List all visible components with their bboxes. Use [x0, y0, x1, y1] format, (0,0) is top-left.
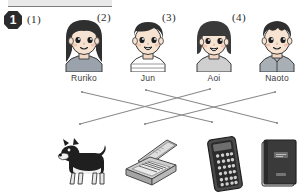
avatar-aoi [186, 14, 242, 72]
person-name-aoi: Aoi [186, 73, 242, 83]
object-card-dog[interactable] [55, 135, 117, 193]
person-name-jun: Jun [120, 73, 176, 83]
person-card-naoto[interactable]: Naoto [249, 14, 297, 90]
avatar-jun [120, 14, 176, 72]
worksheet-page: 1 (1) (2) (3) (4) [0, 0, 297, 195]
pencil-case-icon [120, 135, 182, 193]
person-card-jun[interactable]: Jun [120, 14, 176, 90]
person-card-aoi[interactable]: Aoi [186, 14, 242, 90]
object-card-calculator[interactable] [194, 135, 256, 193]
person-name-naoto: Naoto [249, 73, 297, 83]
avatar-naoto [249, 14, 297, 72]
line-ruriko-calculator [82, 92, 212, 122]
line-aoi-dog [80, 89, 210, 124]
top-cutoff-bar [8, 0, 112, 7]
notebook-icon [250, 135, 297, 193]
object-card-notebook[interactable] [250, 135, 297, 193]
person-name-ruriko: Ruriko [56, 73, 112, 83]
line-jun-notebook [146, 90, 277, 123]
person-card-ruriko[interactable]: Ruriko [56, 14, 112, 90]
avatar-ruriko [56, 14, 112, 72]
object-card-pencil-case[interactable] [120, 135, 182, 193]
question-number-badge: 1 [4, 11, 22, 29]
line-naoto-pencilcase [145, 92, 275, 124]
calculator-icon [194, 135, 256, 193]
item-number-1: (1) [27, 13, 41, 25]
dog-icon [55, 135, 117, 193]
